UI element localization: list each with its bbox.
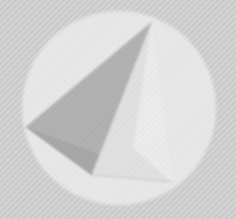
logo-canvas: Faded grayscale pyramid logo inside a ci… (0, 0, 236, 219)
pyramid-logo-graphic: Faded grayscale pyramid logo inside a ci… (0, 0, 236, 219)
overlay-texture (0, 0, 236, 219)
